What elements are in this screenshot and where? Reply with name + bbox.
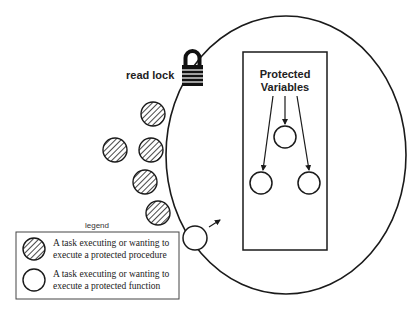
procedure-task-circle	[141, 102, 165, 126]
variable-circle-center	[274, 126, 296, 148]
arrow-to-variable-left	[263, 96, 273, 170]
procedure-task-circle	[133, 170, 157, 194]
variable-circle-right	[298, 172, 320, 194]
procedure-task-circle	[103, 138, 127, 162]
legend-open-circle-icon	[23, 269, 45, 291]
legend-hatched-circle-icon	[23, 238, 45, 260]
legend-title: legend	[85, 221, 109, 230]
variable-circle-left	[250, 172, 272, 194]
function-task-entry-arrow	[209, 220, 220, 227]
protected-variables-title-line2: Variables	[261, 81, 309, 93]
function-task-circle	[183, 226, 207, 250]
procedure-task-circle	[139, 138, 163, 162]
padlock-icon	[182, 51, 203, 86]
protected-object-boundary	[166, 16, 406, 294]
legend-item-procedure-line2: execute a protected procedure	[53, 250, 167, 260]
legend-item-function-line1: A task executing or wanting to	[53, 269, 170, 279]
arrow-to-variable-right	[297, 96, 309, 170]
read-lock-label: read lock	[126, 69, 175, 81]
legend-item-procedure-line1: A task executing or wanting to	[53, 238, 170, 248]
protected-object-diagram: Protected Variables read lock legend A t…	[0, 0, 419, 316]
procedure-task-circle	[146, 201, 170, 225]
protected-variables-title-line1: Protected	[260, 68, 311, 80]
legend-item-function-line2: execute a protected function	[53, 281, 161, 291]
